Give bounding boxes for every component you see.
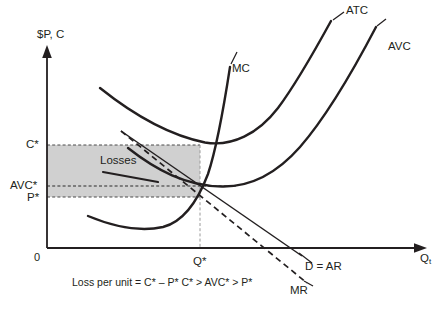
- curve-label-demand-ar: D = AR: [305, 261, 342, 273]
- y-tick-label-p-star: P*: [27, 192, 39, 204]
- x-axis-label-subscript: t: [429, 257, 431, 266]
- economics-diagram: $P, C Qt 0 C* AVC* P* Q* ATC AVC MC D = …: [0, 0, 446, 315]
- y-tick-label-c-star: C*: [26, 139, 39, 151]
- losses-shaded-region: [47, 145, 200, 197]
- y-axis-label: $P, C: [37, 29, 64, 41]
- curve-label-atc: ATC: [346, 5, 368, 17]
- figure-caption: Loss per unit = C* – P* C* > AVC* > P*: [72, 277, 252, 288]
- losses-region-label: Losses: [100, 155, 136, 167]
- curve-atc: [100, 21, 331, 143]
- x-axis-label-main: Q: [420, 252, 429, 264]
- origin-label: 0: [34, 252, 40, 263]
- chart-canvas: [0, 0, 446, 315]
- x-tick-label-q-star: Q*: [193, 256, 206, 268]
- avc-label-leader: [377, 19, 386, 26]
- x-axis-label: Qt: [420, 253, 431, 265]
- y-axis-arrowhead: [42, 45, 52, 58]
- atc-label-leader: [333, 12, 344, 20]
- y-tick-label-avc-star: AVC*: [10, 180, 37, 192]
- curve-label-mr: MR: [290, 285, 308, 297]
- curve-label-avc: AVC: [388, 41, 411, 53]
- curve-label-mc: MC: [232, 63, 250, 75]
